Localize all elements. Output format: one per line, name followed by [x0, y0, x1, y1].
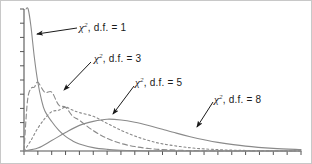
arrow-df5 [113, 86, 134, 114]
annotation-label-df8: χ2, d.f. = 8 [214, 94, 261, 105]
y-axis-ticks [20, 9, 24, 151]
annotation-arrows [37, 28, 213, 127]
annotation-label-df1: χ2, d.f. = 1 [79, 22, 126, 33]
x-axis-ticks [24, 151, 301, 155]
annotation-text-df8: , d.f. = 8 [223, 94, 261, 105]
arrow-df8 [197, 102, 213, 127]
annotation-text-df1: , d.f. = 1 [88, 22, 126, 33]
curve-df-3 [24, 82, 301, 151]
annotation-label-df5: χ2, d.f. = 5 [135, 77, 182, 88]
curve-df-8 [24, 119, 301, 151]
annotation-text-df3: , d.f. = 3 [103, 53, 141, 64]
chi-square-distribution-figure: χ2, d.f. = 1 χ2, d.f. = 3 χ2, d.f. = 5 χ… [0, 0, 312, 164]
annotation-text-df5: , d.f. = 5 [144, 77, 182, 88]
arrow-df1 [37, 28, 77, 34]
annotation-label-df3: χ2, d.f. = 3 [94, 53, 141, 64]
arrow-df3 [64, 62, 91, 90]
